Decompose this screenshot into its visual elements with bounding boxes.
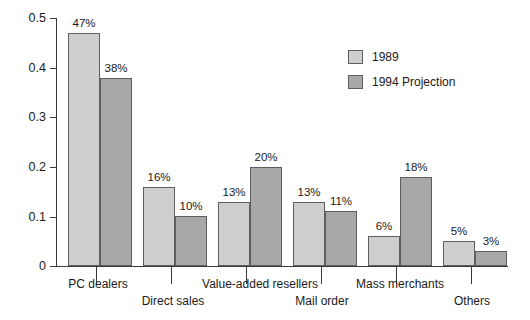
y-axis-tick bbox=[50, 117, 57, 118]
y-axis-label: 0.1 bbox=[6, 211, 46, 223]
legend-item-1994-projection: 1994 Projection bbox=[348, 72, 455, 92]
bar-value-label: 13% bbox=[293, 187, 325, 199]
bar-value-label: 10% bbox=[175, 201, 207, 213]
y-axis-label: 0 bbox=[6, 260, 46, 272]
bar-value-label: 3% bbox=[475, 236, 507, 248]
y-axis-tick bbox=[50, 18, 57, 19]
bar-value-label: 20% bbox=[250, 152, 282, 164]
legend-swatch-icon bbox=[348, 75, 363, 89]
y-axis-label: 0.2 bbox=[6, 161, 46, 173]
bar-value-label: 16% bbox=[143, 172, 175, 184]
bar-pc-dealers-1989 bbox=[68, 33, 100, 266]
legend-label: 1994 Projection bbox=[372, 76, 455, 88]
x-axis-tick bbox=[171, 266, 172, 284]
bar-value-label: 13% bbox=[218, 187, 250, 199]
y-axis-label: 0.3 bbox=[6, 111, 46, 123]
x-category-label-pc-dealers: PC dealers bbox=[53, 278, 143, 291]
y-axis-label: 0.4 bbox=[6, 62, 46, 74]
y-axis-tick bbox=[50, 217, 57, 218]
legend-swatch-icon bbox=[348, 50, 363, 64]
x-axis-tick bbox=[471, 266, 472, 284]
legend-item-1989: 1989 bbox=[348, 47, 455, 67]
y-axis-tick bbox=[50, 68, 57, 69]
x-category-label-direct-sales: Direct sales bbox=[118, 295, 228, 308]
bar-others-1989 bbox=[443, 241, 475, 266]
y-axis-tick bbox=[50, 167, 57, 168]
x-axis-line bbox=[56, 266, 508, 267]
bar-pc-dealers-1994 bbox=[100, 78, 132, 266]
bar-value-label: 38% bbox=[100, 63, 132, 75]
bar-value-label: 6% bbox=[368, 221, 400, 233]
x-category-label-mail-order: Mail order bbox=[272, 295, 372, 308]
bar-value-label: 5% bbox=[443, 226, 475, 238]
bar-value-added-resellers-1989 bbox=[218, 202, 250, 266]
y-axis-label: 0.5 bbox=[6, 12, 46, 24]
bar-value-label: 11% bbox=[325, 196, 357, 208]
bar-value-added-resellers-1994 bbox=[250, 167, 282, 266]
bar-mass-merchants-1989 bbox=[368, 236, 400, 266]
bar-chart: 0.5 0.4 0.3 0.2 0.1 0 47% 38% 16% 10% bbox=[0, 0, 530, 320]
bar-mail-order-1989 bbox=[293, 202, 325, 266]
x-category-label-mass-merchants: Mass merchants bbox=[340, 278, 460, 291]
x-category-label-others: Others bbox=[432, 295, 512, 308]
bar-mail-order-1994 bbox=[325, 211, 357, 266]
legend: 1989 1994 Projection bbox=[348, 47, 455, 97]
legend-label: 1989 bbox=[372, 51, 399, 63]
bar-direct-sales-1994 bbox=[175, 216, 207, 266]
x-category-label-value-added-resellers: Value-added resellers bbox=[180, 278, 340, 291]
bar-mass-merchants-1994 bbox=[400, 177, 432, 266]
bar-others-1994 bbox=[475, 251, 507, 266]
bar-direct-sales-1989 bbox=[143, 187, 175, 266]
bar-value-label: 47% bbox=[68, 18, 100, 30]
bar-value-label: 18% bbox=[400, 162, 432, 174]
